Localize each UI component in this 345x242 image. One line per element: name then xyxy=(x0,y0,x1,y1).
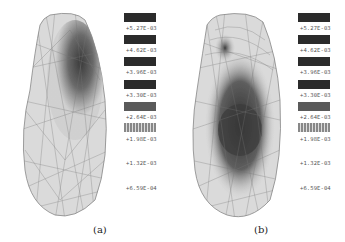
legend-label: +3.96E-03 xyxy=(300,69,331,75)
panel-caption-b: (b) xyxy=(254,224,268,235)
legend-label: +3.30E-03 xyxy=(300,92,331,98)
legend-label: +3.30E-03 xyxy=(126,92,157,98)
legend-swatch xyxy=(298,35,330,44)
legend-label: +2.64E-03 xyxy=(300,114,331,120)
panel-a: +5.27E-03 +4.62E-03 +3.96E-03 +3.30E-03 … xyxy=(0,0,170,242)
legend-label: +5.27E-03 xyxy=(300,25,331,31)
legend-label: +6.59E-04 xyxy=(126,185,157,191)
legend-label: +1.98E-03 xyxy=(126,136,157,142)
legend-label: +2.64E-03 xyxy=(126,114,157,120)
legend-label: +3.96E-03 xyxy=(126,69,157,75)
legend-swatch xyxy=(298,13,330,22)
legend-label: +6.59E-04 xyxy=(300,185,331,191)
panel-caption-a: (a) xyxy=(93,224,107,235)
legend-label: +1.32E-03 xyxy=(300,160,331,166)
panel-b: +5.27E-03 +4.62E-03 +3.96E-03 +3.30E-03 … xyxy=(170,0,345,242)
legend-swatch xyxy=(124,80,156,89)
legend-label: +1.98E-03 xyxy=(300,136,331,142)
legend-swatch xyxy=(124,35,156,44)
legend-swatch xyxy=(124,57,156,66)
legend-label: +4.62E-03 xyxy=(126,47,157,53)
mesh-contour-plot-b xyxy=(185,10,285,220)
legend-label: +4.62E-03 xyxy=(300,47,331,53)
legend-swatch xyxy=(298,80,330,89)
legend-swatch xyxy=(298,123,330,132)
legend-swatch xyxy=(124,13,156,22)
legend-swatch xyxy=(298,57,330,66)
legend-swatch xyxy=(298,102,330,111)
mesh-contour-plot-a xyxy=(15,10,110,220)
legend-swatch xyxy=(124,123,156,132)
legend-label: +5.27E-03 xyxy=(126,25,157,31)
legend-label: +1.32E-03 xyxy=(126,160,157,166)
legend-swatch xyxy=(124,102,156,111)
